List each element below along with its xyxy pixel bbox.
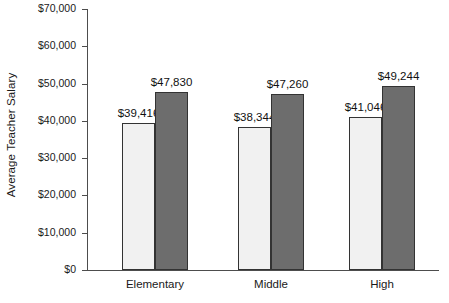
y-axis-tick-label: $30,000 <box>6 151 76 163</box>
plot-area: $39,416$47,830$38,344$47,260$41,046$49,2… <box>87 9 439 270</box>
y-axis-tick-label: $0 <box>6 263 76 275</box>
bar <box>349 117 382 270</box>
bar-value-label: $49,244 <box>378 70 420 82</box>
bar <box>382 86 415 270</box>
y-axis-tick-label: $10,000 <box>6 226 76 238</box>
y-axis-title-text: Average Teacher Salary <box>5 73 17 198</box>
bar <box>155 92 188 270</box>
y-axis-tick-label: $40,000 <box>6 114 76 126</box>
y-axis-tick-label: $50,000 <box>6 77 76 89</box>
bar-value-label: $47,260 <box>267 78 309 90</box>
bar-chart: Average Teacher Salary $0$10,000$20,000$… <box>0 0 449 303</box>
y-axis-tick-label: $60,000 <box>6 39 76 51</box>
bar-value-label: $39,416 <box>118 107 160 119</box>
bar-value-label: $41,046 <box>345 101 387 113</box>
bar <box>271 94 304 270</box>
x-axis-category-label: High <box>370 278 394 290</box>
y-axis-tick-label: $70,000 <box>6 2 76 14</box>
bar <box>238 127 271 270</box>
bar-value-label: $38,344 <box>234 111 276 123</box>
y-axis-tick-label: $20,000 <box>6 188 76 200</box>
x-axis-line <box>87 270 439 271</box>
bar-value-label: $47,830 <box>151 76 193 88</box>
x-axis-category-label: Elementary <box>126 278 184 290</box>
bar <box>122 123 155 270</box>
x-axis-category-label: Middle <box>254 278 288 290</box>
